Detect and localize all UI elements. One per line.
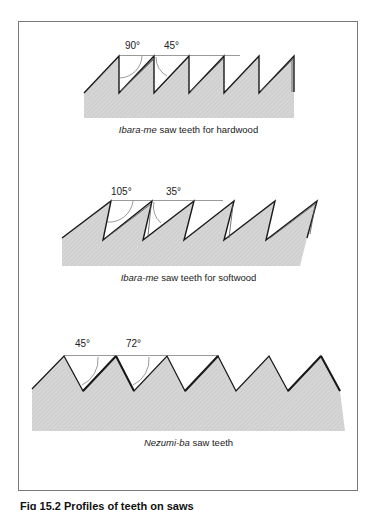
caption-nezumi-rest: saw teeth — [190, 437, 233, 448]
caption-hardwood-rest: saw teeth for hardwood — [157, 124, 258, 135]
angle-label-35: 35° — [166, 186, 181, 197]
caption-nezumi-italic: Nezumi-ba — [144, 437, 190, 448]
softwood-teeth — [62, 201, 317, 267]
angle-label-90: 90° — [125, 40, 140, 51]
angle-label-45b: 45° — [75, 338, 90, 349]
angle-label-105: 105° — [111, 186, 132, 197]
angle-label-72: 72° — [126, 338, 141, 349]
caption-softwood-italic: Ibara-me — [121, 272, 159, 283]
hardwood-teeth — [84, 56, 294, 119]
caption-softwood: Ibara-me saw teeth for softwood — [0, 272, 377, 283]
caption-nezumi: Nezumi-ba saw teeth — [0, 437, 377, 448]
nezumi-ba-teeth — [32, 356, 345, 432]
saw-teeth-diagrams — [0, 0, 377, 510]
caption-hardwood-italic: Ibara-me — [119, 124, 157, 135]
angle-label-45: 45° — [164, 40, 179, 51]
figure-caption: Fig 15.2 Profiles of teeth on saws — [20, 500, 194, 510]
caption-softwood-rest: saw teeth for softwood — [159, 272, 257, 283]
caption-hardwood: Ibara-me saw teeth for hardwood — [0, 124, 377, 135]
